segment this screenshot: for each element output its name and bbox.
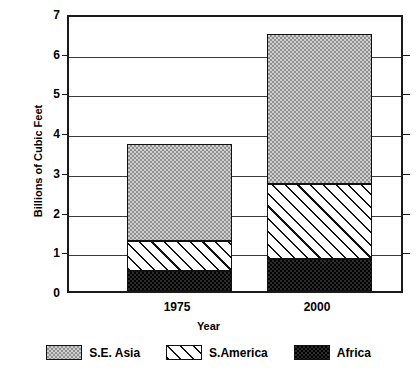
y-axis-tick-label: 6 [42, 49, 60, 61]
legend-entry-samerica: S.America [166, 345, 268, 360]
bar-segment-africa-1975 [127, 271, 232, 291]
y-axis-tick-label: 3 [42, 168, 60, 180]
y-axis-tick-mark-right [403, 253, 410, 254]
bar-2000 [267, 13, 372, 291]
bar-segment-seasia-2000 [267, 34, 372, 184]
legend-label: S.America [209, 346, 268, 360]
x-axis-tick-label-1975: 1975 [132, 300, 222, 314]
legend-swatch-seasia [46, 345, 82, 360]
legend-swatch-africa [294, 345, 330, 360]
y-axis-tick-mark-right [403, 94, 410, 95]
stacked-bar-chart: Billions of Cubic Feet 01234567 19752000… [0, 0, 417, 376]
y-axis-tick-label: 2 [42, 208, 60, 220]
bar-segment-seasia-1975 [127, 144, 232, 241]
y-axis-tick-label: 4 [42, 128, 60, 140]
legend-label: S.E. Asia [89, 346, 140, 360]
bar-segment-samerica-2000 [267, 184, 372, 259]
x-axis-title: Year [0, 320, 417, 332]
legend-label: Africa [337, 346, 371, 360]
y-axis-tick-mark-right [403, 174, 410, 175]
y-axis-tick-label: 5 [42, 88, 60, 100]
y-axis-tick-label: 1 [42, 247, 60, 259]
y-axis-tick-mark-right [403, 55, 410, 56]
plot-area [67, 15, 403, 293]
legend-entry-africa: Africa [294, 345, 371, 360]
y-axis-tick-mark-right [403, 134, 410, 135]
y-axis-tick-label: 0 [42, 287, 60, 299]
legend-entry-seasia: S.E. Asia [46, 345, 140, 360]
bar-segment-africa-2000 [267, 259, 372, 291]
y-axis-tick-label: 7 [42, 9, 60, 21]
chart-legend: S.E. AsiaS.AmericaAfrica [0, 345, 417, 360]
bar-segment-samerica-1975 [127, 241, 232, 271]
bar-1975 [127, 13, 232, 291]
y-axis-tick-mark-right [403, 214, 410, 215]
legend-swatch-samerica [166, 345, 202, 360]
x-axis-tick-label-2000: 2000 [272, 300, 362, 314]
